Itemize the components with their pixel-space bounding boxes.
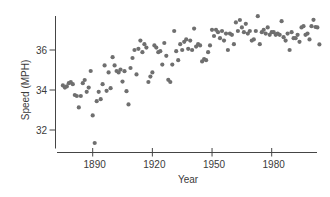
x-tick-label: 1890	[84, 159, 107, 170]
data-point	[97, 90, 101, 94]
data-point	[130, 56, 134, 60]
data-point	[176, 58, 180, 62]
data-point	[120, 80, 124, 84]
data-point	[146, 80, 150, 84]
data-point	[75, 94, 79, 98]
data-point	[297, 40, 301, 44]
data-point	[230, 33, 234, 37]
data-point	[87, 86, 91, 90]
y-tick-label: 36	[36, 45, 48, 56]
data-point	[288, 48, 292, 52]
data-point	[89, 69, 93, 73]
data-point	[218, 36, 222, 40]
data-point	[190, 48, 194, 52]
y-tick-label: 32	[36, 125, 48, 136]
y-tick-label: 34	[36, 85, 48, 96]
data-point	[101, 82, 105, 86]
data-point	[236, 29, 240, 33]
data-point	[113, 63, 117, 67]
data-point	[244, 22, 248, 26]
data-point	[132, 48, 136, 52]
data-point	[186, 47, 190, 51]
scatterplot-figure: 3234361890192019501980 Speed (MPH) Year	[0, 0, 330, 197]
data-point	[256, 14, 260, 18]
data-point	[264, 31, 268, 35]
data-point	[122, 69, 126, 73]
data-point	[232, 42, 236, 46]
data-point	[198, 43, 202, 47]
data-point	[188, 39, 192, 43]
data-point	[109, 86, 113, 90]
data-point	[262, 28, 266, 32]
x-tick-label: 1980	[263, 159, 286, 170]
data-point	[170, 63, 174, 67]
data-point	[180, 48, 184, 52]
data-point	[212, 34, 216, 38]
data-point	[154, 46, 158, 50]
data-point	[71, 82, 75, 86]
data-point	[242, 30, 246, 34]
data-point	[254, 29, 258, 33]
y-axis-label: Speed (MPH)	[21, 60, 31, 121]
data-point	[296, 33, 300, 37]
data-point	[126, 102, 130, 106]
data-point	[91, 113, 95, 117]
data-point	[168, 80, 172, 84]
data-point	[162, 41, 166, 45]
data-point	[148, 75, 152, 79]
data-point	[174, 49, 178, 53]
data-point	[107, 70, 111, 74]
data-point	[286, 31, 290, 35]
data-point	[240, 25, 244, 29]
data-point	[138, 39, 142, 43]
data-point	[216, 30, 220, 34]
data-point	[144, 46, 148, 50]
data-point	[311, 18, 315, 22]
data-point	[124, 89, 128, 93]
data-point	[307, 37, 311, 41]
data-point	[317, 42, 321, 46]
data-point	[178, 42, 182, 46]
x-tick-label: 1920	[143, 159, 166, 170]
data-point	[301, 24, 305, 28]
data-point	[128, 66, 132, 70]
data-point	[103, 63, 107, 67]
data-point	[172, 29, 176, 33]
data-point	[136, 47, 140, 51]
data-point	[284, 39, 288, 43]
data-point	[83, 78, 87, 82]
data-point	[77, 105, 81, 109]
data-point	[305, 31, 309, 35]
data-point	[224, 31, 228, 35]
data-point	[150, 70, 154, 74]
data-point	[222, 39, 226, 43]
data-point	[192, 27, 196, 31]
data-point	[158, 49, 162, 53]
data-point	[280, 19, 284, 23]
data-point	[164, 54, 168, 58]
data-point	[105, 89, 109, 93]
data-point	[160, 63, 164, 67]
data-point	[248, 29, 252, 33]
data-point	[220, 29, 224, 33]
data-point	[93, 141, 97, 145]
data-point	[315, 25, 319, 29]
data-point	[278, 33, 282, 37]
data-point	[266, 25, 270, 29]
data-point	[140, 50, 144, 54]
x-axis-label: Year	[178, 175, 198, 185]
data-point	[238, 18, 242, 22]
data-point	[95, 99, 99, 103]
data-point	[234, 20, 238, 24]
data-point	[206, 50, 210, 54]
data-point	[111, 55, 115, 59]
data-point	[184, 37, 188, 41]
data-point	[208, 43, 212, 47]
data-point	[309, 24, 313, 28]
data-point	[258, 42, 262, 46]
scatter-plot-canvas: 3234361890192019501980	[0, 0, 330, 197]
data-point	[210, 28, 214, 32]
data-point	[252, 37, 256, 41]
data-point	[204, 58, 208, 62]
data-point	[118, 68, 122, 72]
